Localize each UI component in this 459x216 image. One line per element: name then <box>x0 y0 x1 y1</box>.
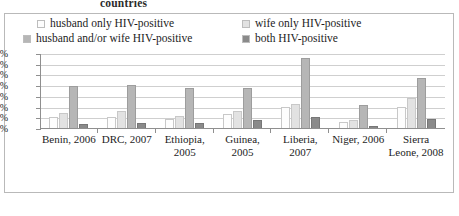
legend-swatch-both <box>242 35 250 43</box>
legend-swatch-either <box>23 35 31 43</box>
x-axis-category-labels: Benin, 2006DRC, 2007Ethiopia, 2005Guinea… <box>40 133 445 193</box>
bar-group <box>156 54 214 129</box>
legend-label-wife-only: wife only HIV-positive <box>255 17 361 29</box>
x-axis-category-label: Benin, 2006 <box>40 133 98 193</box>
chart-title-strip: countries <box>0 0 459 13</box>
bar-husband-only[interactable] <box>223 114 232 129</box>
y-axis-tick-label: 0.0% <box>0 124 8 134</box>
x-axis-category-label: DRC, 2007 <box>98 133 156 193</box>
y-axis-tick-label: 3.5% <box>0 49 8 59</box>
bar-either[interactable] <box>301 58 310 129</box>
legend-item-both[interactable]: both HIV-positive <box>242 32 338 45</box>
bar-group <box>387 54 445 129</box>
plot-area: 0.0%0.5%1.0%1.5%2.0%2.5%3.0%3.5% <box>40 54 445 129</box>
bar-wife-only[interactable] <box>59 113 68 129</box>
bar-wife-only[interactable] <box>233 111 242 129</box>
x-axis-category-label: Ethiopia, 2005 <box>156 133 214 193</box>
legend-item-wife-only[interactable]: wife only HIV-positive <box>242 17 361 30</box>
x-axis-line <box>40 128 445 129</box>
bar-group <box>329 54 387 129</box>
bar-wife-only[interactable] <box>291 104 300 129</box>
y-axis-tick-label: 2.0% <box>0 81 8 91</box>
legend-item-husband-only[interactable]: husband only HIV-positive <box>37 17 174 30</box>
bar-either[interactable] <box>127 85 136 129</box>
bar-either[interactable] <box>359 105 368 129</box>
x-axis-category-label: Guinea, 2005 <box>214 133 272 193</box>
bar-either[interactable] <box>185 88 194 129</box>
chart-container: husband only HIV-positive wife only HIV-… <box>4 13 454 193</box>
y-axis-tick-label: 3.0% <box>0 60 8 70</box>
chart-legend: husband only HIV-positive wife only HIV-… <box>23 17 433 47</box>
bar-either[interactable] <box>417 78 426 129</box>
y-axis-tick-label: 0.5% <box>0 113 8 123</box>
y-axis-tick-label: 1.0% <box>0 103 8 113</box>
y-axis-tick-label: 2.5% <box>0 70 8 80</box>
legend-swatch-husband-only <box>37 20 45 28</box>
bar-wife-only[interactable] <box>117 111 126 129</box>
bar-wife-only[interactable] <box>407 98 416 129</box>
bar-husband-only[interactable] <box>397 107 406 130</box>
page-title: countries <box>100 0 147 9</box>
legend-label-both: both HIV-positive <box>255 32 338 44</box>
legend-swatch-wife-only <box>242 20 250 28</box>
legend-label-husband-only: husband only HIV-positive <box>50 17 174 29</box>
x-axis-category-label: Niger, 2006 <box>329 133 387 193</box>
bar-group <box>214 54 272 129</box>
y-axis-tick-label: 1.5% <box>0 92 8 102</box>
legend-item-either[interactable]: husband and/or wife HIV-positive <box>23 32 192 45</box>
bar-either[interactable] <box>243 88 252 129</box>
bar-group <box>271 54 329 129</box>
bar-either[interactable] <box>69 86 78 129</box>
bar-group <box>40 54 98 129</box>
bar-groups <box>40 54 445 129</box>
x-axis-category-label: Sierra Leone, 2008 <box>387 133 445 193</box>
legend-label-either: husband and/or wife HIV-positive <box>36 32 192 44</box>
bar-husband-only[interactable] <box>281 107 290 130</box>
bar-group <box>98 54 156 129</box>
x-axis-category-label: Liberia, 2007 <box>271 133 329 193</box>
